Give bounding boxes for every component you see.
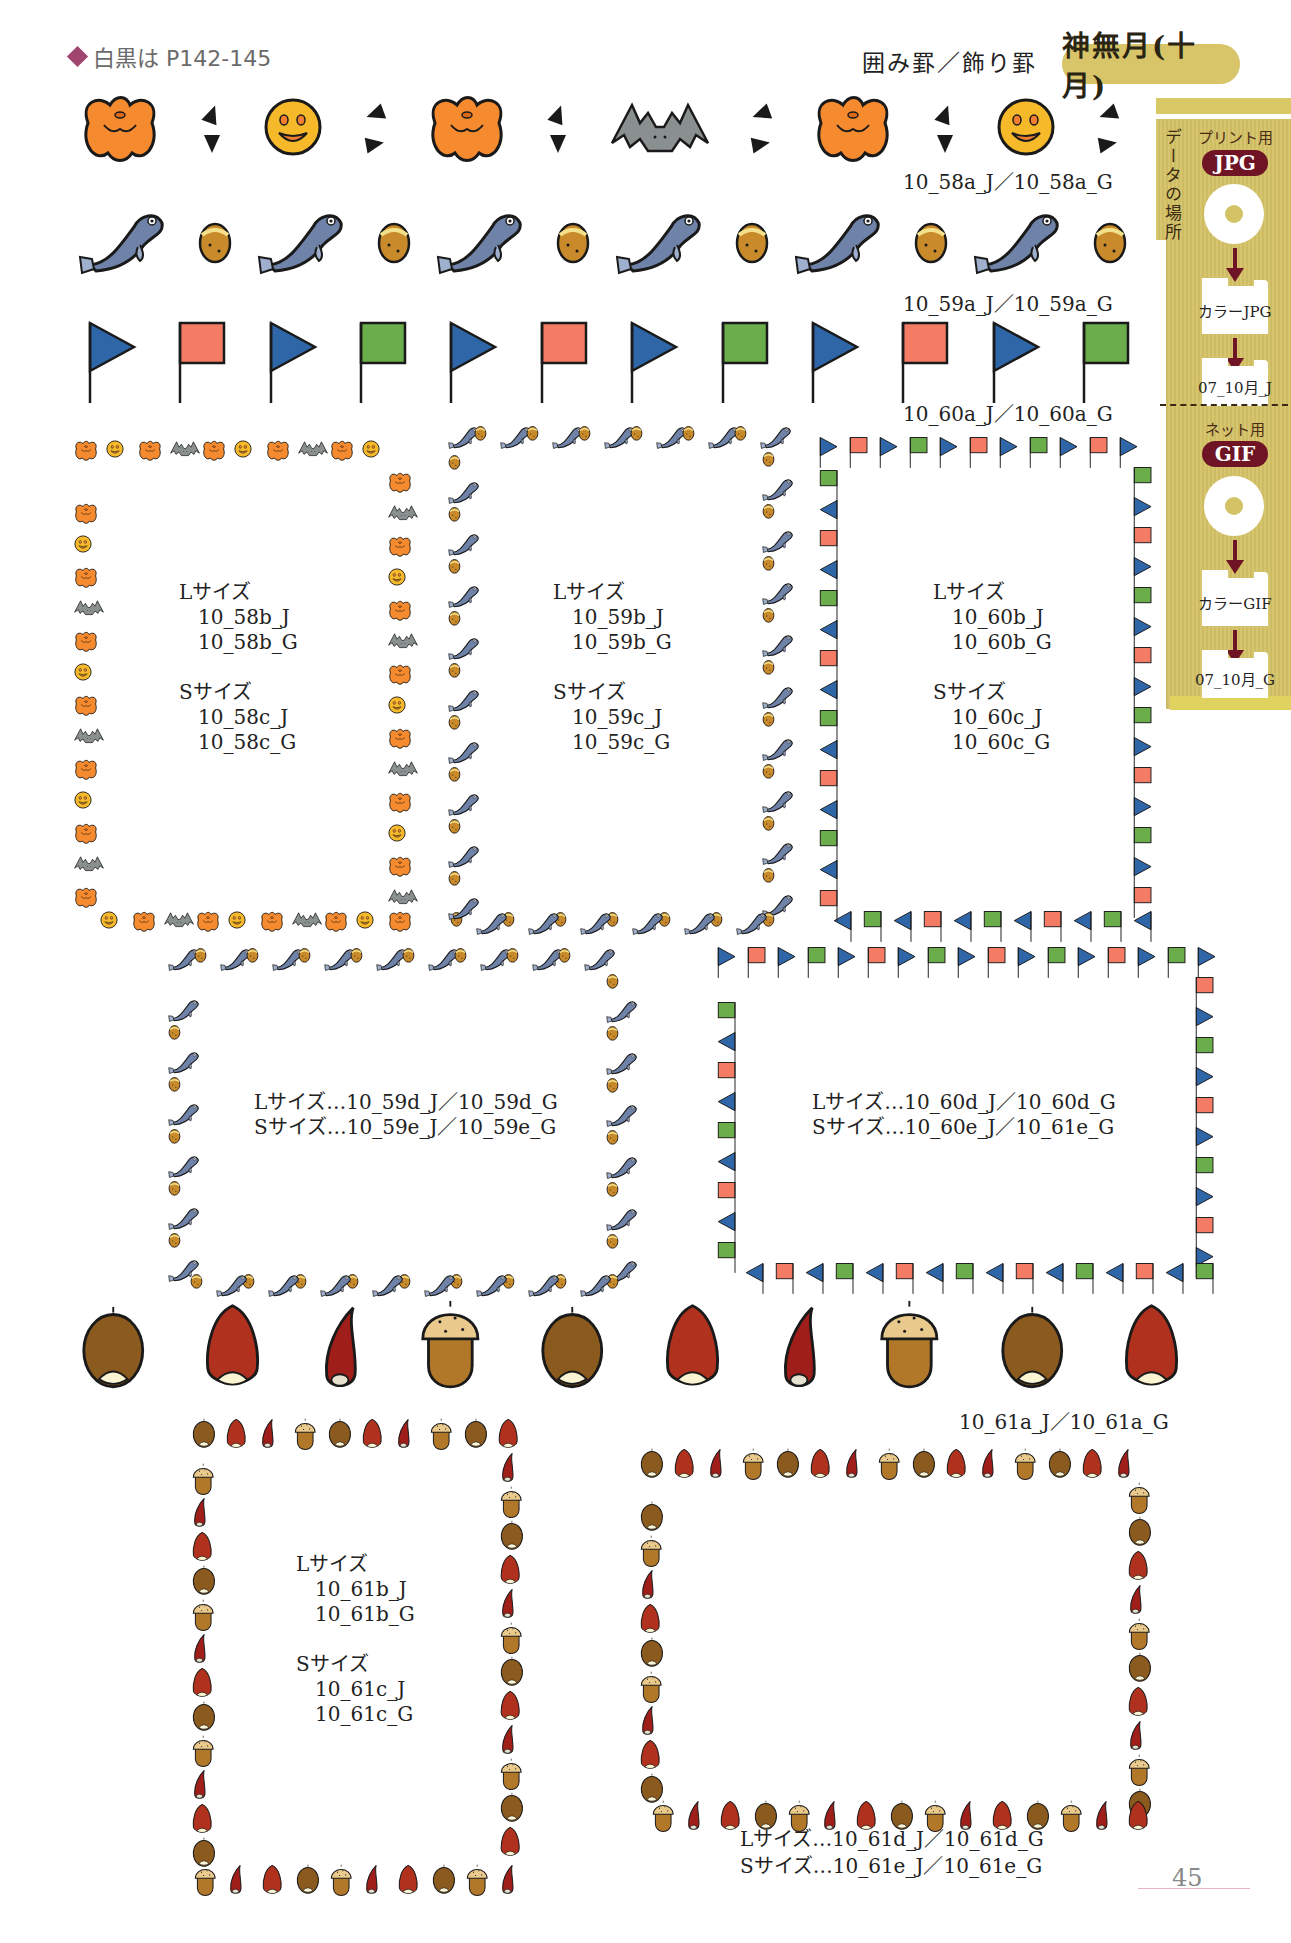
border-ornament xyxy=(984,1262,1005,1299)
smiley-face-icon xyxy=(234,440,252,458)
pumpkin-icon xyxy=(74,887,98,907)
strip-item xyxy=(933,102,957,156)
border-ornament xyxy=(194,946,207,967)
border-ornament xyxy=(448,531,483,561)
chestnut-sliver-icon xyxy=(1094,1800,1109,1831)
chestnut-sliver-icon xyxy=(500,1724,515,1755)
chestnut-icon xyxy=(539,1305,606,1391)
strip-item xyxy=(436,205,532,281)
border-ornament xyxy=(362,440,380,462)
border-ornament xyxy=(298,440,328,461)
red-square-flag-icon xyxy=(894,1262,915,1295)
acorn-icon xyxy=(578,424,591,441)
red-square-flag-icon xyxy=(1106,946,1127,979)
strip-item xyxy=(878,1299,941,1402)
green-square-flag-icon xyxy=(982,910,1003,943)
border-ornament xyxy=(362,1418,382,1455)
green-square-flag-icon xyxy=(1132,586,1153,619)
acorn-icon xyxy=(555,217,591,265)
acorn-cap-icon xyxy=(1128,1754,1150,1789)
chestnut-icon xyxy=(432,1864,456,1895)
border-ornament xyxy=(506,946,519,967)
chestnut-sliver-icon xyxy=(1128,1720,1143,1751)
frame-fish-10-59: Lサイズ 10_59b_J 10_59b_G Sサイズ 10_59c_J 10_… xyxy=(448,424,784,934)
border-ornament xyxy=(716,1001,737,1038)
blue-pennant-flag-icon xyxy=(1194,1066,1215,1099)
red-chestnut-icon xyxy=(500,1826,520,1859)
acorn-icon xyxy=(606,972,619,989)
border-ornament xyxy=(606,1024,619,1045)
green-square-flag-icon xyxy=(1132,706,1153,739)
bat-icon xyxy=(292,911,322,928)
red-chestnut-icon xyxy=(1123,1302,1180,1393)
frame-flags-10-60: Lサイズ 10_60b_J 10_60b_G Sサイズ 10_60c_J 10_… xyxy=(818,436,1154,934)
border-ornament xyxy=(606,1128,619,1149)
border-ornament xyxy=(396,1418,411,1453)
strip-item xyxy=(536,319,592,409)
acorn-cap-icon xyxy=(640,1535,662,1570)
fish-icon xyxy=(684,910,719,936)
chestnut-sliver-icon xyxy=(319,1304,361,1391)
strip-item xyxy=(539,1305,606,1395)
acorn-icon xyxy=(350,946,363,963)
red-chestnut-icon xyxy=(498,1418,518,1451)
blue-pennant-flag-icon xyxy=(1076,946,1097,979)
red-square-flag-icon xyxy=(986,946,1007,979)
pumpkin-icon xyxy=(330,440,354,460)
strip-caption-10-60a: 10_60a_J／10_60a_G xyxy=(903,398,1113,427)
fish-icon xyxy=(606,998,641,1024)
pumpkin-icon xyxy=(74,631,98,651)
acorn-cap-icon xyxy=(192,1735,214,1770)
folder-color-jpg: カラーJPG xyxy=(1202,286,1268,334)
strip-item xyxy=(626,319,682,409)
red-square-flag-icon xyxy=(848,436,869,469)
acorn-cap-icon xyxy=(1128,1482,1150,1517)
border-ornament xyxy=(498,1418,518,1455)
border-ornament xyxy=(1094,1800,1109,1835)
frame-filenames: Lサイズ 10_59b_J 10_59b_G Sサイズ 10_59c_J 10_… xyxy=(553,580,672,755)
frame-nuts-10-61de xyxy=(640,1448,1150,1824)
chestnut-icon xyxy=(296,1864,320,1895)
smiley-face-icon xyxy=(996,97,1056,157)
border-ornament xyxy=(74,599,104,620)
border-ornament xyxy=(266,440,290,464)
border-ornament xyxy=(398,1864,418,1901)
strip-item xyxy=(1123,1302,1180,1397)
border-ornament xyxy=(388,568,406,590)
acorn-cap-icon xyxy=(466,1864,488,1899)
border-ornament xyxy=(292,911,322,932)
border-ornament xyxy=(74,503,98,527)
acorn-icon xyxy=(762,658,775,675)
pumpkin-icon xyxy=(388,792,412,812)
fish-icon xyxy=(372,1272,407,1298)
border-ornament xyxy=(982,910,1003,947)
pumpkin-icon xyxy=(196,911,220,931)
chestnut-icon xyxy=(1128,1652,1152,1683)
red-chestnut-icon xyxy=(810,1448,830,1481)
border-ornament xyxy=(526,424,539,445)
acorn-icon xyxy=(606,1128,619,1145)
green-square-flag-icon xyxy=(1132,466,1153,499)
triangle-icon xyxy=(363,102,387,126)
acorn-icon xyxy=(762,606,775,623)
fish-icon xyxy=(606,1050,641,1076)
acorn-cap-icon xyxy=(640,1671,662,1706)
border-ornament xyxy=(1048,1448,1072,1483)
border-ornament xyxy=(1102,910,1123,947)
triangle-icon xyxy=(546,102,570,126)
border-ornament xyxy=(500,1588,515,1623)
strip-item xyxy=(363,102,387,156)
strip-item xyxy=(419,1299,482,1402)
border-ornament xyxy=(132,911,156,935)
red-chestnut-icon xyxy=(192,1531,212,1564)
green-square-flag-icon xyxy=(1078,319,1134,405)
pumpkin-icon xyxy=(80,93,160,161)
border-ornament xyxy=(356,911,374,933)
month-badge: 神無月(十月) xyxy=(1062,44,1240,84)
acorn-cap-icon xyxy=(878,1299,941,1398)
acorn-cap-icon xyxy=(192,1463,214,1498)
fish-icon xyxy=(424,1272,459,1298)
border-ornament xyxy=(1134,1262,1155,1299)
fish-icon xyxy=(448,479,483,505)
border-ornament xyxy=(448,739,483,769)
